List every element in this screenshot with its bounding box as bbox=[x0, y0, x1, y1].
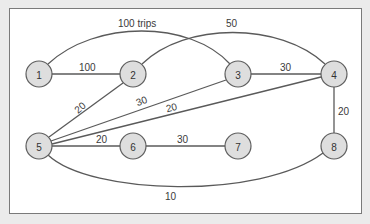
edge-label-2-4: 50 bbox=[226, 18, 238, 29]
node-1: 1 bbox=[26, 61, 52, 87]
graph-canvas: 100 trips 100 50 30 20 30 20 20 20 30 10… bbox=[0, 0, 370, 224]
node-5: 5 bbox=[26, 133, 52, 159]
svg-text:1: 1 bbox=[36, 70, 42, 81]
edge-label-3-4: 30 bbox=[280, 62, 292, 73]
edge-label-6-7: 30 bbox=[177, 134, 189, 145]
edge-label-1-3: 100 trips bbox=[118, 18, 156, 29]
svg-text:7: 7 bbox=[235, 142, 241, 153]
svg-text:8: 8 bbox=[331, 142, 337, 153]
node-2: 2 bbox=[120, 61, 146, 87]
edge-label-5-8: 10 bbox=[165, 191, 177, 202]
svg-text:5: 5 bbox=[36, 142, 42, 153]
edge-label-1-2: 100 bbox=[79, 62, 96, 73]
node-6: 6 bbox=[120, 133, 146, 159]
edge-label-4-5: 20 bbox=[165, 101, 179, 114]
svg-text:3: 3 bbox=[235, 70, 241, 81]
node-7: 7 bbox=[225, 133, 251, 159]
node-4: 4 bbox=[321, 61, 347, 87]
edge-5-8 bbox=[48, 153, 323, 187]
edge-label-5-6: 20 bbox=[96, 134, 108, 145]
edge-1-3 bbox=[48, 31, 230, 64]
svg-text:4: 4 bbox=[331, 70, 337, 81]
node-8: 8 bbox=[321, 133, 347, 159]
edge-2-4 bbox=[142, 33, 325, 65]
edge-label-2-5: 20 bbox=[72, 100, 88, 116]
edge-label-3-5: 30 bbox=[134, 94, 149, 108]
node-3: 3 bbox=[225, 61, 251, 87]
edge-label-4-8: 20 bbox=[338, 106, 350, 117]
svg-text:6: 6 bbox=[130, 142, 136, 153]
svg-text:2: 2 bbox=[130, 70, 136, 81]
